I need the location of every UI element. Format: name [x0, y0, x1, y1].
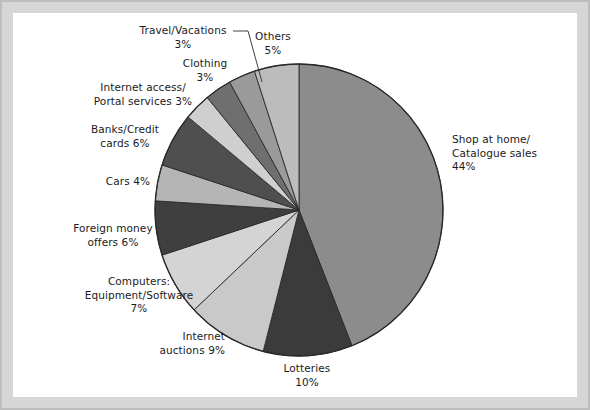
slice-label-clothing: Clothing 3%	[165, 57, 245, 84]
figure: Shop at home/ Catalogue sales 44% Lotter…	[0, 0, 590, 410]
pie-chart	[0, 0, 590, 410]
slice-label-internet-auctions: Internet auctions 9%	[130, 330, 225, 357]
slice-label-cars: Cars 4%	[60, 175, 150, 189]
slice-label-computers: Computers: Equipment/Software 7%	[53, 275, 225, 316]
slice-label-banks-credit: Banks/Credit cards 6%	[70, 123, 180, 150]
slice-label-lotteries: Lotteries 10%	[262, 362, 352, 389]
chart-canvas: Shop at home/ Catalogue sales 44% Lotter…	[0, 0, 590, 410]
slice-label-others: Others 5%	[238, 30, 308, 57]
slice-label-shop-at-home: Shop at home/ Catalogue sales 44%	[452, 133, 537, 174]
slice-label-foreign-money: Foreign money offers 6%	[48, 222, 178, 249]
slice-label-travel-vacations: Travel/Vacations 3%	[123, 24, 243, 51]
slice-label-internet-access: Internet access/ Portal services 3%	[78, 81, 208, 108]
